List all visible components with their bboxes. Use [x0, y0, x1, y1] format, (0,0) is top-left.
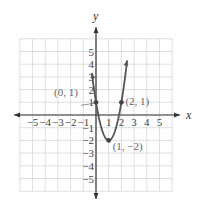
y-tick-label: −5	[82, 173, 94, 185]
y-tick-label: 5	[89, 46, 95, 58]
y-axis-label: y	[92, 9, 99, 23]
x-tick-label: 2	[119, 116, 125, 128]
point-marker	[94, 100, 99, 105]
x-tick-label: 3	[131, 116, 137, 128]
point-label: (2, 1)	[125, 95, 149, 108]
y-axis-arrow-up-icon	[94, 27, 99, 33]
y-axis-arrow-down-icon	[94, 193, 99, 199]
y-tick-label: −4	[82, 160, 94, 172]
x-tick-label: −3	[52, 116, 64, 128]
point-marker	[119, 100, 124, 105]
x-tick-label: 1	[106, 116, 112, 128]
y-tick-label: −1	[82, 122, 94, 134]
point-label: (0, 1)	[54, 86, 78, 99]
point-label: (1, −2)	[113, 140, 143, 153]
x-axis-arrow-right-icon	[174, 113, 180, 118]
parabola-graph: −5−4−3−2−112345−5−4−3−2−112345 (0, 1)(2,…	[0, 0, 204, 206]
x-axis-label: x	[185, 108, 192, 122]
x-tick-label: 5	[157, 116, 163, 128]
x-axis-arrow-left-icon	[14, 113, 20, 118]
point-marker	[106, 138, 111, 143]
y-tick-label: 4	[89, 58, 95, 70]
x-tick-label: −5	[27, 116, 39, 128]
y-tick-label: −2	[82, 134, 94, 146]
y-tick-label: 1	[89, 96, 95, 108]
x-tick-label: 4	[144, 116, 150, 128]
axes	[14, 27, 180, 199]
y-tick-label: −3	[82, 147, 94, 159]
x-tick-label: −2	[65, 116, 77, 128]
x-tick-label: −4	[39, 116, 51, 128]
